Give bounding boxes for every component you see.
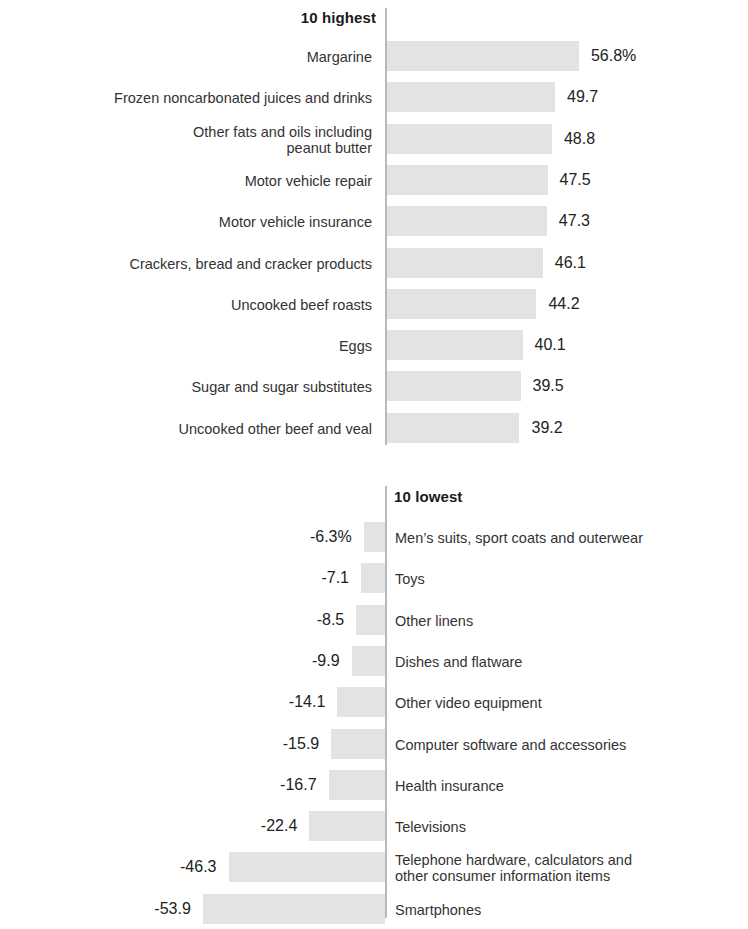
bar-value-label: 48.8: [564, 130, 595, 148]
bar-category-label: Health insurance: [395, 778, 748, 794]
bar: [337, 687, 385, 717]
bar: [352, 646, 385, 676]
bar-category-label: Other video equipment: [395, 695, 748, 711]
bar-row: Computer software and accessories-15.9: [0, 728, 748, 762]
bar-row: Other fats and oils including peanut but…: [0, 123, 748, 157]
bar-row: Men’s suits, sport coats and outerwear-6…: [0, 521, 748, 555]
bar-value-label: 46.1: [555, 254, 586, 272]
bar-row: Motor vehicle repair47.5: [0, 164, 748, 198]
bar-value-label: -7.1: [0, 569, 349, 587]
bar-value-label: 44.2: [548, 295, 579, 313]
bar-row: Margarine56.8%: [0, 40, 748, 74]
bar-category-label: Telephone hardware, calculators and othe…: [395, 852, 748, 884]
bar: [361, 563, 385, 593]
bar-value-label: -22.4: [0, 817, 297, 835]
bar-category-label: Uncooked beef roasts: [0, 297, 372, 313]
bar-value-label: -16.7: [0, 776, 317, 794]
bar-category-label: Margarine: [0, 49, 372, 65]
bar-row: Other video equipment-14.1: [0, 686, 748, 720]
bar: [364, 522, 385, 552]
panel-title-lowest: 10 lowest: [394, 488, 462, 505]
bar-row: Uncooked beef roasts44.2: [0, 288, 748, 322]
bar-row: Sugar and sugar substitutes39.5: [0, 370, 748, 404]
bar-category-label: Uncooked other beef and veal: [0, 421, 372, 437]
bar-category-label: Other fats and oils including peanut but…: [0, 124, 372, 156]
bar: [387, 289, 536, 319]
bar-value-label: 47.5: [560, 171, 591, 189]
bar-row: Health insurance-16.7: [0, 769, 748, 803]
bar: [387, 206, 547, 236]
bar-value-label: -53.9: [0, 900, 191, 918]
bar-value-label: -8.5: [0, 611, 344, 629]
bar: [387, 371, 521, 401]
bar: [387, 248, 543, 278]
bar-value-label: -9.9: [0, 652, 340, 670]
bar: [309, 811, 385, 841]
bar-category-label: Sugar and sugar substitutes: [0, 379, 372, 395]
bar: [329, 770, 385, 800]
chart-panel-highest: 10 highest Margarine56.8%Frozen noncarbo…: [0, 0, 748, 460]
bar-category-label: Other linens: [395, 613, 748, 629]
bar-row: Dishes and flatware-9.9: [0, 645, 748, 679]
bar-value-label: 39.2: [531, 419, 562, 437]
bar-category-label: Smartphones: [395, 902, 748, 918]
bar-value-label: -46.3: [0, 858, 217, 876]
bar-row: Eggs40.1: [0, 329, 748, 363]
bar-row: Smartphones-53.9: [0, 893, 748, 927]
bar: [356, 605, 385, 635]
bar-category-label: Motor vehicle insurance: [0, 214, 372, 230]
bar: [203, 894, 385, 924]
bar: [331, 729, 385, 759]
bar-category-label: Televisions: [395, 819, 748, 835]
bar-category-label: Men’s suits, sport coats and outerwear: [395, 530, 748, 546]
bar-category-label: Eggs: [0, 338, 372, 354]
bar-row: Uncooked other beef and veal39.2: [0, 412, 748, 446]
bar: [387, 41, 579, 71]
bar-value-label: 49.7: [567, 88, 598, 106]
chart-panel-lowest: Men’s suits, sport coats and outerwear-6…: [0, 470, 748, 929]
bar-value-label: -15.9: [0, 735, 319, 753]
bar-category-label: Computer software and accessories: [395, 737, 748, 753]
bar-row: Toys-7.1: [0, 562, 748, 596]
panel-title-highest: 10 highest: [301, 9, 376, 26]
bar: [387, 82, 555, 112]
bar-value-label: 39.5: [533, 377, 564, 395]
bar-value-label: 40.1: [535, 336, 566, 354]
bar-row: Telephone hardware, calculators and othe…: [0, 851, 748, 885]
bar: [229, 852, 385, 882]
bar: [387, 413, 519, 443]
bar-category-label: Toys: [395, 571, 748, 587]
bar-row: Motor vehicle insurance47.3: [0, 205, 748, 239]
bar-row: Frozen noncarbonated juices and drinks49…: [0, 81, 748, 115]
bar-category-label: Motor vehicle repair: [0, 173, 372, 189]
bar: [387, 124, 552, 154]
bar: [387, 330, 523, 360]
bar-value-label: -14.1: [0, 693, 325, 711]
bar-category-label: Crackers, bread and cracker products: [0, 256, 372, 272]
bar-value-label: -6.3%: [0, 528, 352, 546]
bar-row: Televisions-22.4: [0, 810, 748, 844]
bar-category-label: Dishes and flatware: [395, 654, 748, 670]
bar-value-label: 56.8%: [591, 47, 636, 65]
bar-value-label: 47.3: [559, 212, 590, 230]
bar: [387, 165, 548, 195]
bar-category-label: Frozen noncarbonated juices and drinks: [0, 90, 372, 106]
bar-row: Crackers, bread and cracker products46.1: [0, 247, 748, 281]
bar-row: Other linens-8.5: [0, 604, 748, 638]
